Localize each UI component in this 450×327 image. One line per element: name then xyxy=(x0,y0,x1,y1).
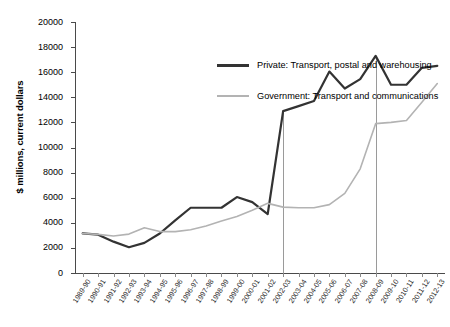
x-tick-mark xyxy=(345,273,346,277)
x-tick-mark xyxy=(160,273,161,277)
series-line xyxy=(83,84,438,236)
x-tick-mark xyxy=(206,273,207,277)
x-tick-mark xyxy=(175,273,176,277)
y-tick-label: 6000 xyxy=(17,193,63,202)
x-tick-mark xyxy=(98,273,99,277)
chart-container: $ millions, current dollars 200001800016… xyxy=(0,0,450,327)
x-tick-mark xyxy=(252,273,253,277)
legend-label-private: Private: Transport, postal and warehousi… xyxy=(257,58,432,72)
y-tick-label: 2000 xyxy=(17,243,63,252)
y-tick-label: 18000 xyxy=(17,43,63,52)
legend-label-government: Government: Transport and communications xyxy=(257,89,438,103)
x-tick-mark xyxy=(299,273,300,277)
x-tick-mark xyxy=(283,273,284,277)
legend-swatch-private xyxy=(217,64,249,67)
y-tick-mark xyxy=(71,273,75,274)
x-tick-mark xyxy=(191,273,192,277)
y-tick-label: 8000 xyxy=(17,168,63,177)
x-tick-mark xyxy=(376,273,377,277)
x-tick-mark xyxy=(268,273,269,277)
plot-area: 2000018000160001400012000100008000600040… xyxy=(75,22,445,273)
x-tick-mark xyxy=(83,273,84,277)
x-tick-mark xyxy=(360,273,361,277)
legend-swatch-government xyxy=(217,95,249,97)
y-tick-label: 16000 xyxy=(17,68,63,77)
x-axis-line xyxy=(75,273,445,274)
series-line xyxy=(83,56,438,247)
x-tick-mark xyxy=(129,273,130,277)
x-tick-mark xyxy=(114,273,115,277)
x-tick-mark xyxy=(437,273,438,277)
y-tick-label: 10000 xyxy=(17,143,63,152)
x-tick-mark xyxy=(422,273,423,277)
x-tick-mark xyxy=(391,273,392,277)
x-tick-mark xyxy=(237,273,238,277)
y-tick-label: 14000 xyxy=(17,93,63,102)
y-tick-label: 12000 xyxy=(17,118,63,127)
y-tick-label: 4000 xyxy=(17,218,63,227)
y-tick-label: 20000 xyxy=(17,18,63,27)
y-tick-label: 0 xyxy=(17,269,63,278)
x-tick-mark xyxy=(314,273,315,277)
